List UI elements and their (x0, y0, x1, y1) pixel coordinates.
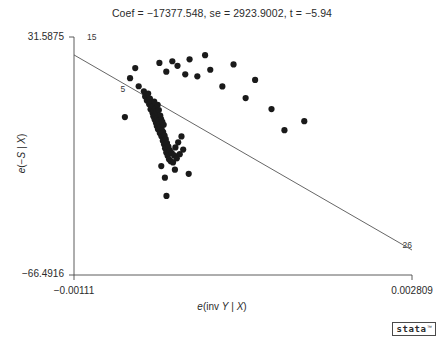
stata-logo: stata ™ (392, 322, 436, 336)
point-annotations: 15526 (0, 0, 444, 345)
point-label-26: 26 (403, 240, 412, 250)
chart-container: Coef = −17377.548, se = 2923.9002, t = −… (0, 0, 444, 345)
point-label-5: 5 (121, 84, 126, 94)
point-label-15: 15 (87, 32, 96, 42)
trademark-symbol: ™ (427, 324, 432, 331)
stata-logo-text: stata (396, 324, 426, 334)
